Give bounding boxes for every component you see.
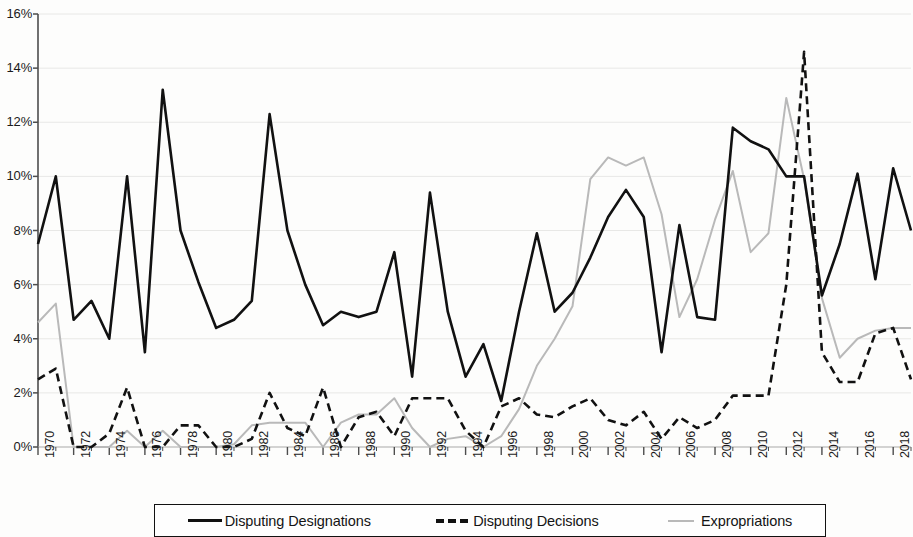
x-axis-tick-label: 1972	[79, 431, 93, 458]
legend-item-expropriations: Expropriations	[664, 513, 792, 529]
x-axis-tick-label: 2004	[649, 431, 663, 458]
x-axis-tick-label: 2006	[684, 431, 698, 458]
x-axis-tick-label: 2014	[827, 431, 841, 458]
x-axis-tick-label: 1984	[292, 431, 306, 458]
x-axis-tick-label: 1998	[542, 431, 556, 458]
series-line-disputing-designations	[38, 90, 911, 401]
x-axis-tick-label: 2010	[756, 431, 770, 458]
series-line-disputing-decisions	[38, 52, 911, 447]
chart-legend: Disputing Designations Disputing Decisio…	[154, 504, 826, 537]
legend-item-disputing-designations: Disputing Designations	[188, 513, 371, 529]
x-axis-tick-label: 1980	[221, 431, 235, 458]
chart-container: 0%2%4%6%8%10%12%14%16% 19701972197419761…	[0, 0, 913, 537]
legend-swatch-solid-line-icon	[188, 515, 222, 527]
x-axis-tick-label: 2018	[898, 431, 912, 458]
legend-label: Disputing Decisions	[473, 513, 598, 529]
x-axis-tick-label: 2016	[863, 431, 877, 458]
x-axis-tick-label: 1994	[471, 431, 485, 458]
legend-item-disputing-decisions: Disputing Decisions	[436, 513, 598, 529]
data-series-layer	[38, 52, 911, 447]
x-axis-tick-label: 1986	[328, 431, 342, 458]
x-axis-tick-label: 1974	[114, 431, 128, 458]
x-axis-tick-label: 1988	[364, 431, 378, 458]
x-axis-tick-label: 1990	[399, 431, 413, 458]
x-axis-tick-label: 1982	[257, 431, 271, 458]
x-axis-tick-label: 2012	[791, 431, 805, 458]
legend-label: Disputing Designations	[225, 513, 371, 529]
x-axis-tick-label: 1992	[435, 431, 449, 458]
x-axis-tick-label: 1970	[43, 431, 57, 458]
series-line-expropriations	[38, 98, 911, 447]
y-axis-tick-label: 4%	[0, 331, 32, 346]
y-axis-tick-label: 14%	[0, 60, 32, 75]
y-axis-tick-label: 10%	[0, 168, 32, 183]
x-axis-tick-label: 2008	[720, 431, 734, 458]
x-axis-tick-label: 1996	[506, 431, 520, 458]
x-axis-tick-label: 2002	[613, 431, 627, 458]
x-axis-tick-label: 1978	[186, 431, 200, 458]
x-axis-tick-label: 2000	[577, 431, 591, 458]
y-axis-tick-label: 16%	[0, 6, 32, 21]
gridlines	[38, 14, 911, 393]
line-chart-plot	[0, 0, 913, 537]
legend-swatch-dashed-line-icon	[436, 515, 470, 527]
legend-label: Expropriations	[701, 513, 792, 529]
legend-swatch-gray-line-icon	[664, 515, 698, 527]
x-axis-tick-label: 1976	[150, 431, 164, 458]
y-axis-tick-label: 0%	[0, 439, 32, 454]
y-axis-tick-label: 2%	[0, 385, 32, 400]
y-axis-tick-label: 6%	[0, 277, 32, 292]
y-axis-tick-label: 12%	[0, 114, 32, 129]
y-axis-tick-label: 8%	[0, 223, 32, 238]
